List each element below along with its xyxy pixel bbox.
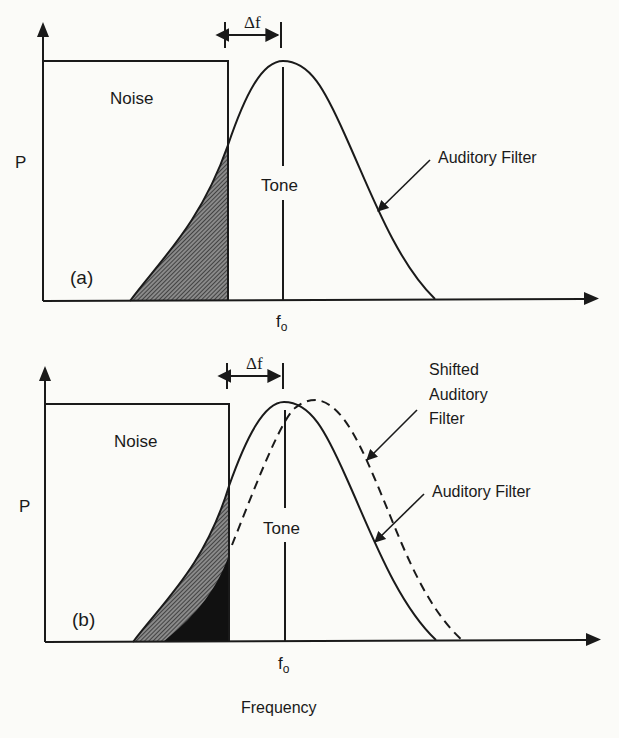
y-axis-arrow-b — [39, 366, 51, 381]
x-axis-arrow-b — [586, 633, 601, 646]
x-axis-label: Frequency — [241, 699, 317, 716]
y-axis-label-b: P — [19, 497, 30, 516]
delta-f-label-a: Δf — [244, 13, 261, 32]
panel-tag-b: (b) — [72, 609, 95, 630]
shifted-filter-label-line2: Auditory — [429, 386, 488, 403]
y-axis-arrow-a — [37, 22, 49, 37]
noise-label-a: Noise — [110, 89, 153, 108]
overlap-region-a — [130, 145, 228, 301]
x-axis-a — [43, 299, 584, 301]
diagram-canvas: Δf Noise P Tone (a) fo Auditory Filter Δ… — [0, 0, 619, 738]
panel-a: Δf Noise P Tone (a) fo Auditory Filter — [15, 13, 599, 334]
y-axis-label-a: P — [15, 153, 26, 172]
fo-label-b: fo — [278, 654, 290, 676]
delta-f-label-b: Δf — [246, 354, 263, 373]
tone-label-a: Tone — [261, 176, 298, 195]
auditory-filter-label-a: Auditory Filter — [438, 149, 537, 166]
tone-label-b: Tone — [263, 519, 300, 538]
fo-label-a: fo — [276, 312, 288, 334]
auditory-filter-label-b: Auditory Filter — [432, 483, 531, 500]
x-axis-arrow-a — [584, 292, 599, 305]
shifted-filter-label-line1: Shifted — [429, 361, 479, 378]
shifted-filter-label-line3: Filter — [429, 410, 465, 427]
x-axis-b — [45, 640, 586, 642]
noise-label-b: Noise — [114, 432, 157, 451]
shifted-filter-pointer-arrow — [367, 410, 417, 460]
filter-pointer-arrow-a — [378, 160, 430, 211]
filter-pointer-arrow-b — [375, 494, 424, 542]
panel-tag-a: (a) — [70, 267, 93, 288]
panel-b: Δf Noise P Tone (b) fo Shifted Auditory … — [19, 354, 601, 676]
